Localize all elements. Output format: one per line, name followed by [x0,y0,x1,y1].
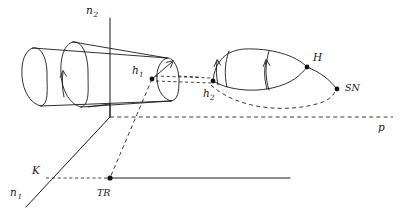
h1-h2-upper-dashed [155,76,211,78]
point-h1-dot [150,77,155,82]
h1-to-tr-dashed-line [110,79,152,178]
label-h2: h [203,87,210,99]
label-n2: n [86,4,93,16]
loop-left-rib [225,51,229,87]
invariant-cylinder [22,42,179,107]
point-TR-dot [107,175,112,180]
label-n1-subscript: 1 [18,192,23,201]
label-h1: h [132,64,139,76]
dashed-lines-group [46,79,393,178]
label-n1: n [10,186,17,198]
label-SN: SN [345,82,361,93]
h1-h2-lower-dashed [156,81,211,83]
loop-upper-arc [213,49,307,81]
loop-return-dashed [211,85,336,108]
label-h2-subscript: 2 [209,93,215,102]
point-SN-dot [335,87,340,92]
axes-group [26,18,290,207]
bifurcation-diagram: n 2 n 1 h 1 h 2 H SN TR K p [0,0,402,212]
label-h1-subscript: 1 [139,70,144,79]
label-K: K [31,164,41,176]
label-n2-subscript: 2 [93,10,99,19]
h1-h2-connector-group [155,76,211,83]
label-TR: TR [97,187,111,198]
point-H-dot [305,65,310,70]
point-h2-dot [211,79,216,84]
cylinder-left-cap-front [22,48,41,106]
cylinder-top-edge-inner [73,42,167,58]
loop-mid-rib [266,51,269,90]
cylinder-left-cap-back [33,48,47,106]
labels-group: n 2 n 1 h 1 h 2 H SN TR K p [10,4,385,201]
loop-tail-to-sn [307,67,336,88]
node-dots-group [107,65,339,181]
cylinder-top-edge [33,48,167,58]
diagram-canvas: n 2 n 1 h 1 h 2 H SN TR K p [0,0,402,212]
label-H: H [312,51,323,63]
label-p: p [378,121,385,133]
